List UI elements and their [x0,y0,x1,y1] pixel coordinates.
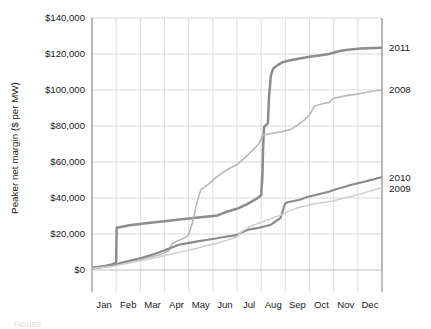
ytick-label-0: $0 [74,264,85,275]
series-label-2008: 2008 [389,84,411,95]
series-label-2010: 2010 [389,172,411,183]
xtick-label-apr: Apr [169,299,185,310]
series-label-2011: 2011 [389,42,410,53]
figure-caption: FIGURE [14,321,42,328]
xtick-label-aug: Aug [265,299,282,310]
y-tick-labels: $0$20,000$40,000$60,000$80,000$100,000$1… [45,12,85,275]
ytick-label-100000: $100,000 [45,84,85,95]
xtick-label-mar: Mar [144,299,161,310]
y-axis-title: Peaker net margin ($ per MW) [9,82,20,214]
xtick-label-jul: Jul [243,299,255,310]
xtick-label-feb: Feb [120,299,137,310]
ytick-label-40000: $40,000 [50,192,85,203]
xtick-label-nov: Nov [337,299,354,310]
ytick-label-120000: $120,000 [45,48,85,59]
ytick-label-140000: $140,000 [45,12,85,23]
ytick-label-80000: $80,000 [50,120,85,131]
xtick-label-sep: Sep [289,299,306,310]
series-label-2009: 2009 [389,183,411,194]
xtick-label-dec: Dec [361,299,378,310]
ytick-label-20000: $20,000 [50,228,85,239]
x-tick-marks [92,270,382,292]
xtick-label-jan: Jan [96,299,111,310]
figure-container: $0$20,000$40,000$60,000$80,000$100,000$1… [0,0,431,329]
peaker-net-margin-line-chart: $0$20,000$40,000$60,000$80,000$100,000$1… [0,0,431,329]
series-end-labels: 2011200820102009 [389,42,411,193]
x-tick-labels: JanFebMarAprMayJunJulAugSepOctNovDec [96,299,378,310]
xtick-label-may: May [192,299,210,310]
ytick-label-60000: $60,000 [50,156,85,167]
xtick-label-jun: Jun [217,299,232,310]
xtick-label-oct: Oct [314,299,329,310]
